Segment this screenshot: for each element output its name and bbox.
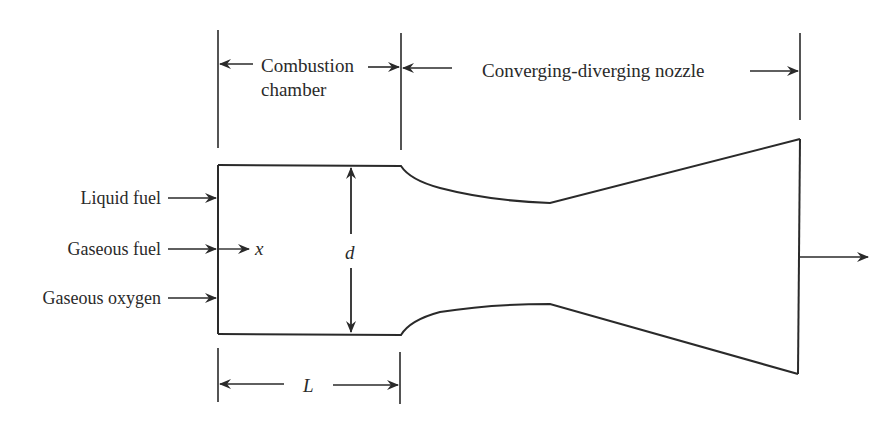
engine-outline-top xyxy=(218,139,800,203)
liquid-fuel-label: Liquid fuel xyxy=(81,188,161,208)
length-symbol: L xyxy=(302,375,314,396)
gaseous-oxygen-label: Gaseous oxygen xyxy=(43,288,161,308)
diameter-symbol: d xyxy=(345,242,355,263)
combustion-chamber-label: Combustion xyxy=(261,55,354,76)
nozzle-label: Converging-diverging nozzle xyxy=(482,60,705,81)
rocket-engine-diagram: Combustion chamber Converging-diverging … xyxy=(0,0,895,427)
x-axis-symbol: x xyxy=(254,238,264,259)
gaseous-fuel-label: Gaseous fuel xyxy=(68,239,161,259)
nozzle-exit-plane xyxy=(798,139,800,374)
engine-outline-bottom xyxy=(218,304,798,374)
combustion-chamber-label-line2: chamber xyxy=(261,79,327,100)
